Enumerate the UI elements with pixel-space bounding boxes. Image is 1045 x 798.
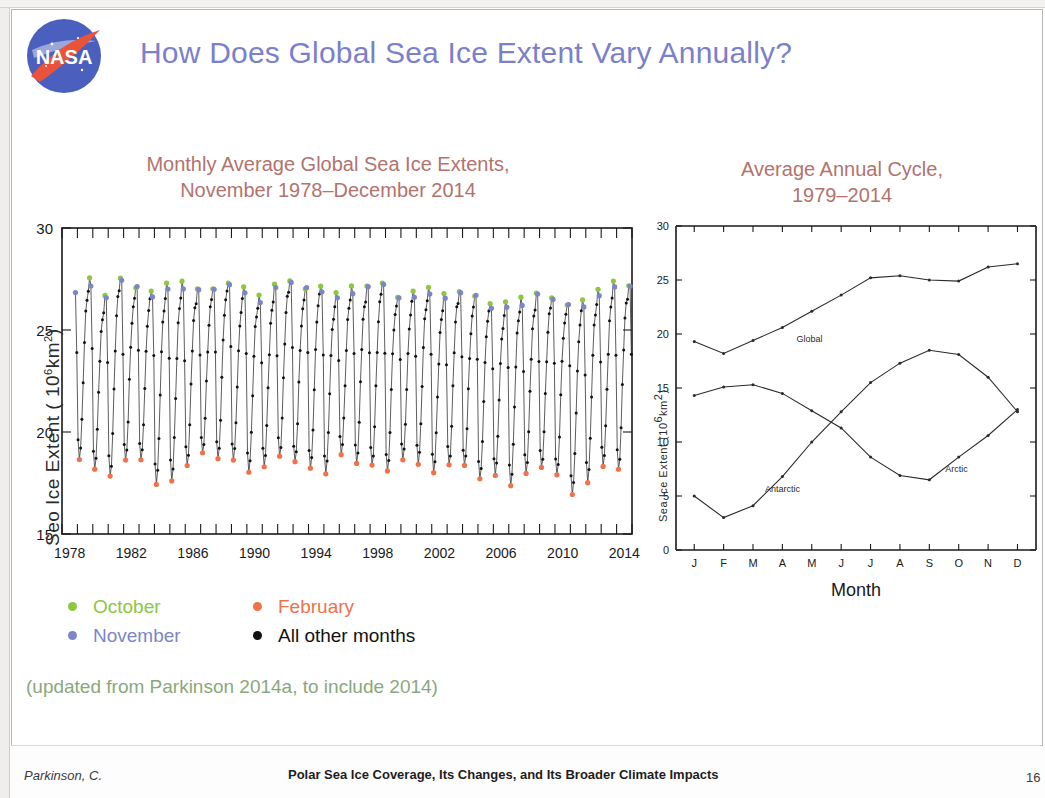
svg-text:J: J xyxy=(691,557,697,569)
svg-text:20: 20 xyxy=(657,328,669,340)
svg-text:Antarctic: Antarctic xyxy=(765,484,801,494)
svg-text:2002: 2002 xyxy=(424,545,455,561)
legend-item-november: November xyxy=(68,625,253,647)
legend-item-october: October xyxy=(68,596,253,618)
source-note: (updated from Parkinson 2014a, to includ… xyxy=(26,676,438,698)
footer-divider xyxy=(11,745,1041,746)
svg-text:1998: 1998 xyxy=(362,545,393,561)
scan-edge-top xyxy=(0,0,1045,8)
legend-item-all-other-months: All other months xyxy=(253,625,438,647)
svg-text:J: J xyxy=(838,557,844,569)
svg-text:Arctic: Arctic xyxy=(945,464,968,474)
footer-title: Polar Sea Ice Coverage, Its Changes, and… xyxy=(288,767,719,782)
scan-edge-left xyxy=(0,0,10,798)
legend-dot-icon xyxy=(68,602,77,611)
legend-label: February xyxy=(278,596,354,618)
svg-text:30: 30 xyxy=(657,220,669,232)
legend-dot-icon xyxy=(253,602,262,611)
svg-text:1982: 1982 xyxy=(116,545,147,561)
monthly-global-sea-ice-extent-chart: Seo Ice Extent ( 106km2) 197819821986199… xyxy=(14,214,644,574)
nasa-wordmark: NASA xyxy=(36,46,93,68)
left-chart-subtitle-line2: November 1978–December 2014 xyxy=(78,178,578,204)
legend-label: October xyxy=(93,596,161,618)
left-chart-legend: October February November All other mont… xyxy=(68,592,498,650)
svg-text:Global: Global xyxy=(796,334,822,344)
svg-text:J: J xyxy=(868,557,874,569)
left-chart-y-axis-label: Seo Ice Extent ( 106km2) xyxy=(42,329,64,547)
legend-dot-icon xyxy=(253,631,262,640)
svg-text:2006: 2006 xyxy=(485,545,516,561)
svg-text:1994: 1994 xyxy=(301,545,332,561)
average-annual-cycle-chart: Sea Ice Extent (106km2) 051015202530JFMA… xyxy=(640,212,1040,602)
left-chart-plot: 1978198219861990199419982002200620102014… xyxy=(14,214,644,574)
nasa-logo: NASA xyxy=(22,14,106,98)
svg-text:N: N xyxy=(984,557,992,569)
svg-text:25: 25 xyxy=(657,274,669,286)
svg-text:D: D xyxy=(1014,557,1022,569)
footer-page-number: 16 xyxy=(1026,770,1040,785)
svg-text:O: O xyxy=(954,557,963,569)
slide-canvas: NASA How Does Global Sea Ice Extent Vary… xyxy=(0,0,1045,798)
right-chart-subtitle-line2: 1979–2014 xyxy=(672,183,1012,209)
svg-text:A: A xyxy=(779,557,787,569)
legend-dot-icon xyxy=(68,631,77,640)
legend-row: October February xyxy=(68,592,498,621)
svg-text:30: 30 xyxy=(36,220,53,237)
svg-text:A: A xyxy=(896,557,904,569)
right-chart-subtitle-line1: Average Annual Cycle, xyxy=(672,157,1012,183)
svg-text:S: S xyxy=(926,557,933,569)
svg-text:0: 0 xyxy=(663,544,669,556)
svg-text:M: M xyxy=(748,557,757,569)
legend-label: All other months xyxy=(278,625,415,647)
right-chart-subtitle: Average Annual Cycle, 1979–2014 xyxy=(672,157,1012,208)
legend-label: November xyxy=(93,625,181,647)
legend-row: November All other months xyxy=(68,621,498,650)
svg-text:1986: 1986 xyxy=(177,545,208,561)
svg-text:2010: 2010 xyxy=(547,545,578,561)
legend-item-february: February xyxy=(253,596,438,618)
page-title: How Does Global Sea Ice Extent Vary Annu… xyxy=(140,36,970,70)
svg-text:2014: 2014 xyxy=(609,545,640,561)
svg-text:F: F xyxy=(720,557,727,569)
right-chart-y-axis-label: Sea Ice Extent (106km2) xyxy=(652,389,669,522)
svg-text:1990: 1990 xyxy=(239,545,270,561)
footer-author: Parkinson, C. xyxy=(24,768,102,783)
svg-text:Month: Month xyxy=(831,580,881,600)
left-chart-subtitle-line1: Monthly Average Global Sea Ice Extents, xyxy=(78,152,578,178)
svg-text:1978: 1978 xyxy=(54,545,85,561)
right-chart-plot: 051015202530JFMAMJJASONDMonthGlobalAntar… xyxy=(640,212,1040,602)
svg-text:M: M xyxy=(807,557,816,569)
left-chart-subtitle: Monthly Average Global Sea Ice Extents, … xyxy=(78,152,578,203)
